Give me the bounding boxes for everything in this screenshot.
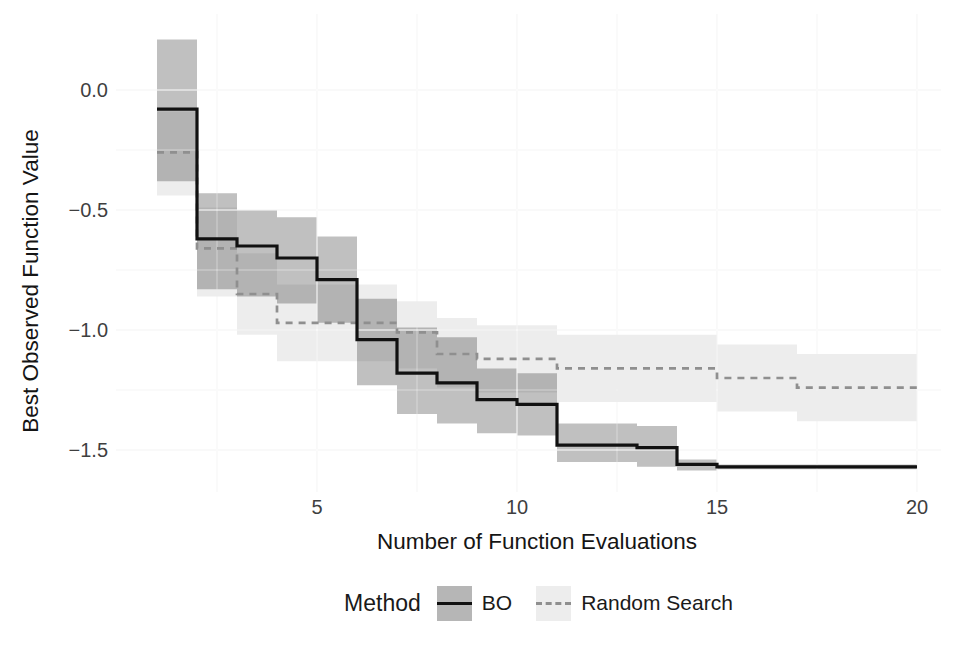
x-tick-label: 15 (706, 496, 728, 518)
plot-area: 5101520 0.0−0.5−1.0−1.5 Number of Functi… (0, 0, 961, 578)
bo-vs-random-search-convergence-figure: 5101520 0.0−0.5−1.0−1.5 Number of Functi… (0, 0, 961, 658)
legend-label-random-search: Random Search (581, 591, 733, 615)
legend-label-bo: BO (482, 591, 512, 615)
y-tick-label: −1.0 (69, 319, 108, 341)
legend-key-bo (437, 586, 472, 621)
y-tick-label: −0.5 (69, 199, 108, 221)
x-tick-label: 20 (906, 496, 928, 518)
x-axis-tick-labels: 5101520 (311, 496, 928, 518)
x-tick-label: 10 (506, 496, 528, 518)
x-tick-label: 5 (311, 496, 322, 518)
legend-key-random-search (536, 586, 571, 621)
y-tick-label: −1.5 (69, 439, 108, 461)
bo-solid-line-swatch (437, 602, 472, 605)
y-axis-title: Best Observed Function Value (18, 129, 43, 433)
x-axis-title: Number of Function Evaluations (377, 529, 697, 554)
legend-title: Method (344, 590, 421, 617)
legend: Method BO Random Search (116, 578, 961, 628)
y-tick-label: 0.0 (80, 79, 108, 101)
y-axis-tick-labels: 0.0−0.5−1.0−1.5 (69, 79, 108, 461)
random-search-dashed-line-swatch (536, 602, 571, 605)
